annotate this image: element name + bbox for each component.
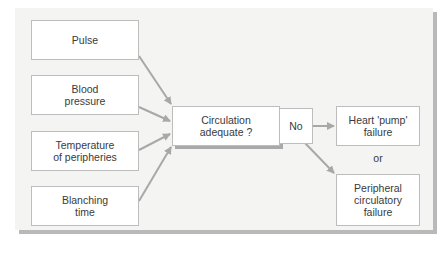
- outcome-box-peripheral-failure: Peripheral circulatory failure: [336, 174, 420, 226]
- outcome-box-heart-pump-failure: Heart 'pump' failure: [336, 106, 420, 146]
- input-box-pulse: Pulse: [31, 20, 139, 60]
- input-box-blanching-time: Blanching time: [31, 186, 139, 226]
- input-box-blood-pressure: Blood pressure: [31, 75, 139, 115]
- connector-or: or: [366, 152, 390, 164]
- decision-box-circulation: Circulation adequate ?: [172, 106, 280, 146]
- branch-box-no: No: [279, 108, 313, 144]
- input-box-temperature: Temperature of peripheries: [31, 131, 139, 171]
